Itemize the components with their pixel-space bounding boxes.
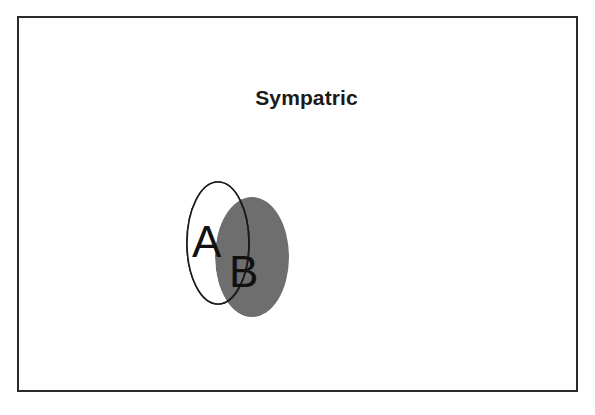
venn-diagram: A B xyxy=(170,175,305,325)
venn-label-a: A xyxy=(192,217,222,266)
venn-label-b: B xyxy=(229,247,258,296)
figure-root: Sympatric A B xyxy=(0,0,595,415)
venn-diagram-svg: A B xyxy=(170,175,305,325)
page-title: Sympatric xyxy=(0,86,595,110)
